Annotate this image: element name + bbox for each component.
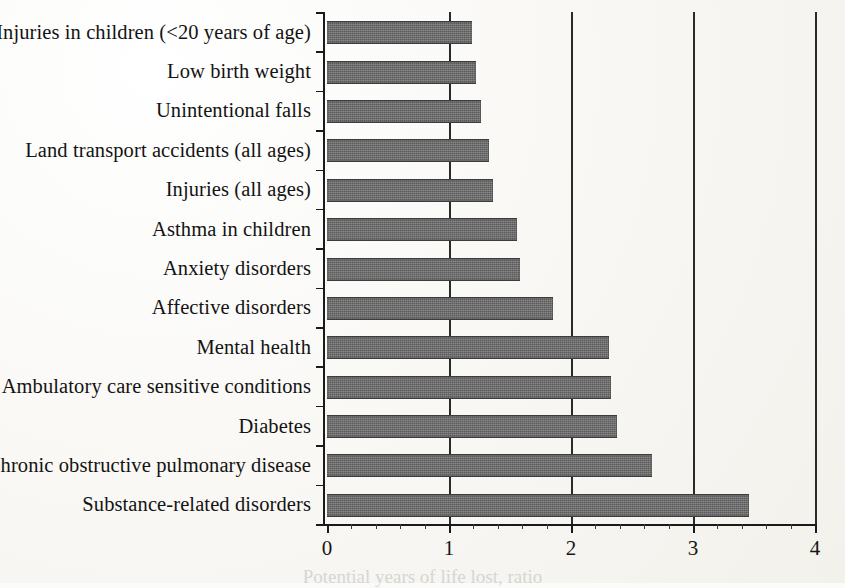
x-tick-major-1.0: [449, 524, 451, 533]
category-label: Affective disorders: [152, 297, 311, 318]
bar: [327, 258, 520, 281]
y-tick: [316, 51, 324, 53]
y-tick: [316, 12, 324, 14]
x-tick-minor-2.6: [644, 524, 645, 529]
y-tick: [316, 209, 324, 211]
gridline-4: [815, 12, 817, 524]
x-tick-minor-0.2: [351, 524, 352, 529]
category-label: Ambulatory care sensitive conditions: [2, 376, 311, 397]
bar: [327, 61, 476, 84]
category-label: Injuries (all ages): [166, 179, 311, 200]
gridline-2: [571, 12, 573, 524]
category-label: Diabetes: [238, 415, 311, 436]
y-tick: [316, 327, 324, 329]
y-tick: [316, 366, 324, 368]
bar: [327, 297, 553, 320]
category-label: Chronic obstructive pulmonary disease: [0, 454, 311, 475]
x-tick-label-0: 0: [322, 536, 333, 561]
x-tick-minor-1.2: [473, 524, 474, 529]
category-label: Substance-related disorders: [82, 494, 311, 515]
bar: [327, 21, 472, 44]
bar: [327, 376, 611, 399]
bar: [327, 179, 493, 202]
bar: [327, 336, 609, 359]
x-tick-minor-3.6: [766, 524, 767, 529]
bar: [327, 100, 481, 123]
category-label: Injuries in children (<20 years of age): [0, 21, 311, 42]
x-tick-major-3.0: [693, 524, 695, 533]
bar: [327, 218, 517, 241]
gridline-3: [693, 12, 695, 524]
y-tick: [316, 130, 324, 132]
x-axis-title: Potential years of life lost, ratio: [0, 566, 845, 588]
x-tick-minor-0.6: [400, 524, 401, 529]
category-label: Low birth weight: [167, 61, 311, 82]
y-tick: [316, 170, 324, 172]
category-label: Mental health: [196, 336, 311, 357]
x-tick-minor-1.8: [547, 524, 548, 529]
x-tick-minor-0.8: [425, 524, 426, 529]
bar: [327, 415, 617, 438]
plot-area: 01234: [327, 12, 815, 524]
x-tick-major-2.0: [571, 524, 573, 533]
x-tick-minor-2.8: [669, 524, 670, 529]
y-tick: [316, 248, 324, 250]
x-tick-minor-2.2: [595, 524, 596, 529]
x-tick-major-4.0: [815, 524, 817, 533]
category-label: Unintentional falls: [156, 100, 311, 121]
x-tick-label-2: 2: [566, 536, 577, 561]
x-tick-minor-1.6: [522, 524, 523, 529]
x-tick-minor-0.4: [376, 524, 377, 529]
x-tick-minor-3.2: [717, 524, 718, 529]
x-tick-minor-3.8: [791, 524, 792, 529]
category-label: Land transport accidents (all ages): [25, 139, 311, 160]
y-tick: [316, 524, 324, 526]
y-tick: [316, 91, 324, 93]
y-tick: [316, 406, 324, 408]
x-tick-minor-1.4: [498, 524, 499, 529]
x-tick-label-1: 1: [444, 536, 455, 561]
category-label: Anxiety disorders: [163, 258, 311, 279]
x-tick-minor-3.4: [742, 524, 743, 529]
bar: [327, 494, 749, 517]
x-tick-major-0.0: [327, 524, 329, 533]
x-tick-minor-2.4: [620, 524, 621, 529]
category-label: Asthma in children: [152, 218, 311, 239]
x-tick-label-4: 4: [810, 536, 821, 561]
bar: [327, 139, 489, 162]
y-tick: [316, 485, 324, 487]
y-tick: [316, 288, 324, 290]
y-tick: [316, 445, 324, 447]
category-label-column: Injuries in children (<20 years of age)L…: [0, 12, 319, 524]
bar: [327, 454, 652, 477]
y-axis-line: [323, 12, 325, 524]
x-tick-label-3: 3: [688, 536, 699, 561]
